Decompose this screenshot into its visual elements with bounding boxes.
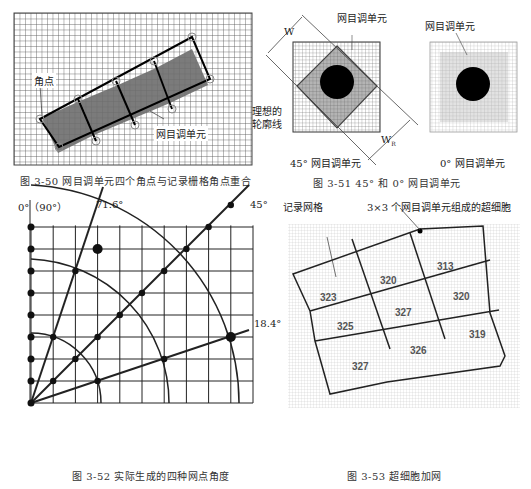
figure-3-52: 0°（90°） 71.6° 45° 18.4° — [0, 200, 280, 460]
recording-grid-rotated-cells-diagram — [14, 13, 252, 165]
w-dimension-label: W — [284, 26, 294, 37]
ideal-outline-label-line2: 轮廓线 — [252, 116, 282, 131]
figure-3-51-caption: 图 3-51 45° 和 0° 网目调单元 — [313, 175, 461, 190]
cell-value-4: 325 — [337, 321, 354, 332]
cell-value-1: 323 — [320, 292, 337, 303]
figure-3-53: 323 320 313 325 327 320 327 326 319 记录网格… — [280, 200, 531, 460]
wr-main: W — [381, 134, 391, 145]
cell-0-sublabel: 0° 网目调单元 — [440, 155, 505, 170]
cell-value-8: 326 — [410, 345, 427, 356]
figure-3-53-caption: 图 3-53 超细胞加网 — [347, 468, 442, 483]
corner-point-label: 角点 — [32, 73, 56, 88]
wr-subscript: R — [391, 140, 396, 147]
angle-45-label: 45° — [250, 199, 268, 210]
halftone-cell-label-45: 网目调单元 — [337, 10, 387, 25]
cell-value-3: 313 — [437, 261, 454, 272]
cell-45-sublabel: 45° 网目调单元 — [290, 155, 361, 170]
supercell-label: 3×3 个网目调单元组成的超细胞 — [367, 199, 511, 214]
wr-dimension-label: WR — [381, 134, 396, 147]
cell-value-6: 320 — [453, 291, 470, 302]
halftone-cell-label-0: 网目调单元 — [425, 18, 475, 33]
supercell-screening-diagram: 323 320 313 325 327 320 327 326 319 — [280, 200, 531, 460]
cell-value-5: 327 — [395, 307, 412, 318]
cell-value-2: 320 — [380, 275, 397, 286]
angle-18-4-label: 18.4° — [254, 318, 281, 329]
cell-value-7: 327 — [352, 361, 369, 372]
screen-angles-diagram — [0, 200, 280, 460]
halftone-cell-label: 网目调单元 — [154, 126, 208, 141]
figure-3-50-caption: 图 3-50 网目调单元四个角点与记录栅格角点重合 — [20, 173, 251, 188]
angle-0-90-label: 0°（90°） — [18, 199, 67, 214]
figure-3-52-caption: 图 3-52 实际生成的四种网点角度 — [72, 468, 230, 483]
angle-71-6-label: 71.6° — [96, 199, 123, 210]
cell-value-9: 319 — [469, 329, 486, 340]
recording-grid-label: 记录网格 — [283, 199, 323, 214]
figure-3-51: 网目调单元 W 理想的 轮廓线 WR 45° 网目调单元 网目调单元 0° 网目… — [260, 0, 531, 195]
figure-3-50: 角点 网目调单元 — [14, 13, 252, 165]
